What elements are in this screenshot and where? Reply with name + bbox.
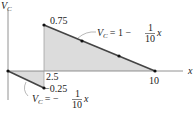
- x-end-label: 10: [149, 75, 159, 86]
- svg-text:1: 1: [75, 88, 80, 99]
- svg-text:x: x: [156, 27, 162, 38]
- shear-diagram: VC x 0.75 2.5 −0.25 10 VC= 1 − 1 10 x VC…: [0, 0, 196, 118]
- upper-equation: VC= 1 − 1 10 x: [97, 22, 162, 44]
- y-axis-label: VC: [1, 0, 12, 13]
- svg-text:VC= 1 −: VC= 1 −: [97, 27, 131, 40]
- point-mid1: [80, 39, 83, 42]
- x-axis-label: x: [187, 65, 193, 76]
- point-mid2: [117, 54, 120, 57]
- x-break-label: 2.5: [46, 71, 59, 82]
- svg-text:10: 10: [72, 99, 82, 110]
- svg-text:10: 10: [145, 33, 155, 44]
- point-origin: [6, 69, 9, 72]
- svg-text:VC= −: VC= −: [32, 93, 59, 106]
- point-top: [42, 23, 45, 26]
- lower-leader: [24, 82, 28, 96]
- top-value-label: 0.75: [50, 15, 68, 26]
- upper-leader: [78, 32, 96, 38]
- svg-text:x: x: [83, 93, 89, 104]
- svg-text:1: 1: [148, 22, 153, 33]
- point-end: [153, 69, 156, 72]
